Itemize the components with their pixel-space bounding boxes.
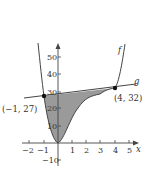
x-axis-label: x: [136, 144, 141, 154]
x-tick-label: 2: [84, 146, 89, 155]
y-axis-arrow-icon: [56, 43, 61, 49]
point-label-1: (−1, 27): [2, 104, 37, 114]
curve-label-f: f: [117, 45, 123, 55]
chart: (−1, 27) (4, 32) f g x −2 −1 1 2 3 4 5 5…: [0, 0, 153, 184]
y-tick-label: 40: [47, 70, 57, 79]
x-tick-label: −1: [37, 146, 49, 155]
y-tick-label: 10: [47, 122, 57, 131]
point-4-32: [113, 86, 117, 90]
x-tick-label: −2: [22, 146, 34, 155]
x-tick-label: 4: [113, 146, 118, 155]
y-tick-label: 20: [47, 104, 57, 113]
curve-label-g: g: [134, 76, 140, 86]
y-tick-label: 30: [47, 88, 57, 97]
x-tick-label: 1: [70, 146, 75, 155]
y-tick-label: −10: [42, 156, 59, 165]
point-minus1-27: [42, 94, 46, 98]
x-tick-label: 3: [98, 146, 103, 155]
x-tick-label: 5: [127, 146, 132, 155]
y-tick-label: 50: [47, 53, 57, 62]
point-label-2: (4, 32): [114, 93, 142, 103]
